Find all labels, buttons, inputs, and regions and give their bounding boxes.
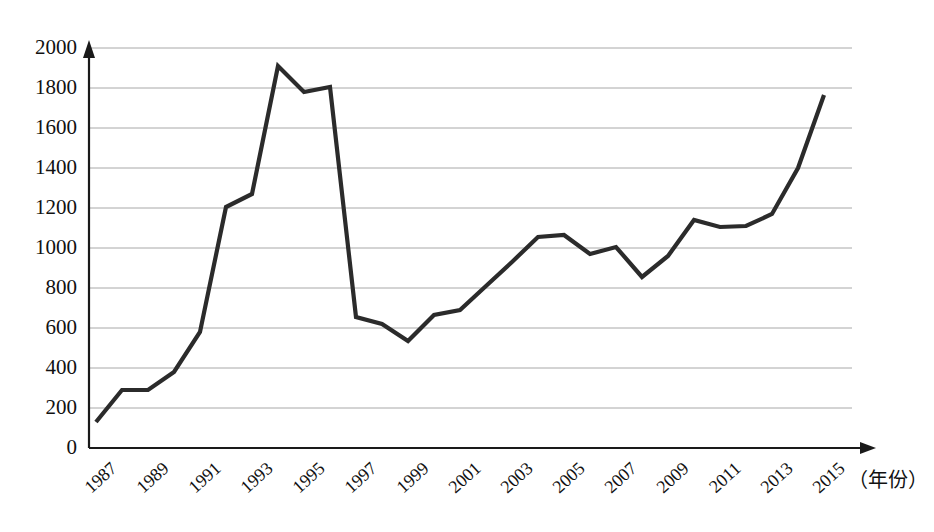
y-axis-arrow-icon <box>83 40 95 58</box>
y-axis-tick-label: 400 <box>46 355 78 379</box>
y-axis-tick-label: 2000 <box>35 35 77 59</box>
y-axis-tick-label: 1000 <box>35 235 77 259</box>
y-axis-tick-label: 1200 <box>35 195 77 219</box>
data-series-line <box>96 66 824 422</box>
x-axis-arrow-icon <box>860 442 876 454</box>
y-axis-tick-label: 200 <box>46 395 78 419</box>
x-axis-tick-label: 1987 <box>81 458 121 497</box>
x-axis-tick-label: 2003 <box>497 458 537 497</box>
x-axis-tick-label: 2013 <box>757 458 797 497</box>
y-axis-tick-label: 800 <box>46 275 78 299</box>
x-axis-tick-label: 2009 <box>653 458 693 497</box>
y-axis-tick-label: 1400 <box>35 155 77 179</box>
x-axis-tick-labels: 1987198919911993199519971999200120032005… <box>81 458 849 497</box>
x-axis-tick-label: 1999 <box>393 458 433 497</box>
y-axis-tick-label: 0 <box>67 435 78 459</box>
x-axis-tick-label: 1989 <box>133 458 173 497</box>
x-axis-tick-label: 2001 <box>445 458 485 497</box>
line-chart: 0200400600800100012001400160018002000 19… <box>0 0 934 532</box>
y-axis-tick-label: 600 <box>46 315 78 339</box>
y-axis-tick-label: 1600 <box>35 115 77 139</box>
x-axis-tick-label: 1995 <box>289 458 329 497</box>
x-axis-tick-label: 1997 <box>341 458 381 497</box>
x-axis-tick-label: 2007 <box>601 458 641 497</box>
x-axis-title: （年份） <box>848 469 928 491</box>
axes <box>83 40 876 454</box>
chart-container: 0200400600800100012001400160018002000 19… <box>0 0 934 532</box>
x-axis-tick-label: 2011 <box>705 458 745 497</box>
x-axis-tick-label: 1993 <box>237 458 277 497</box>
y-axis-tick-label: 1800 <box>35 75 77 99</box>
x-axis-tick-label: 1991 <box>185 458 225 497</box>
y-axis-tick-labels: 0200400600800100012001400160018002000 <box>35 35 77 459</box>
x-axis-tick-label: 2005 <box>549 458 589 497</box>
x-axis-tick-label: 2015 <box>809 458 849 497</box>
